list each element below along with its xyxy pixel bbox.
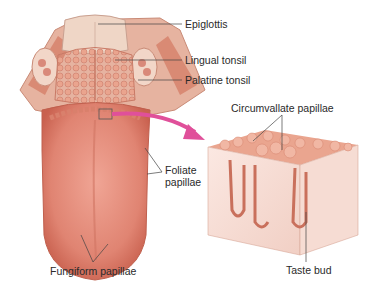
tongue-diagram: Epiglottis Lingual tonsil Palatine tonsi…	[0, 0, 367, 290]
label-palatine-tonsil: Palatine tonsil	[185, 74, 250, 86]
palatine-tonsil-left	[32, 48, 58, 86]
label-epiglottis: Epiglottis	[185, 18, 228, 30]
label-foliate-papillae-2: papillae	[165, 176, 201, 188]
lingual-tonsil	[55, 48, 135, 105]
label-lingual-tonsil: Lingual tonsil	[185, 54, 246, 66]
label-fungiform-papillae: Fungiform papillae	[50, 265, 136, 277]
label-taste-bud: Taste bud	[286, 264, 332, 276]
label-circumvallate-papillae: Circumvallate papillae	[231, 102, 334, 114]
circumvallate-tissue-block	[208, 130, 358, 255]
label-foliate-papillae-1: Foliate	[165, 164, 197, 176]
diagram-artwork	[0, 0, 367, 290]
